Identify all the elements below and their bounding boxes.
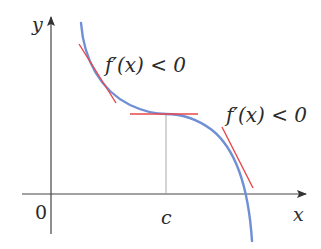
left-derivative-label: f′(x) < 0 [103, 53, 186, 77]
derivative-diagram: y x 0 c f′(x) < 0 f′(x) < 0 [0, 0, 321, 249]
c-tick-label: c [161, 206, 172, 228]
y-axis-label: y [31, 13, 43, 35]
origin-label: 0 [35, 201, 47, 223]
x-axis-label: x [293, 203, 304, 225]
right-derivative-label: f′(x) < 0 [224, 103, 307, 127]
right-tangent-line [222, 127, 253, 188]
